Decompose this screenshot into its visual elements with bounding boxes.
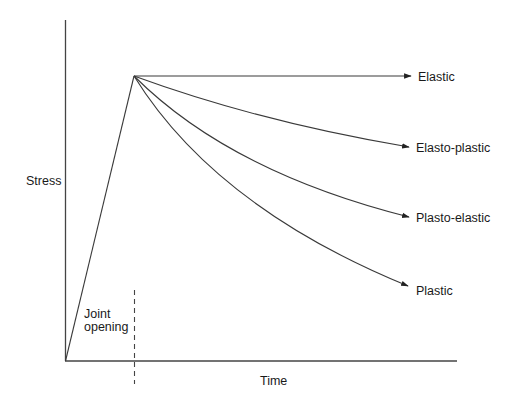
- y-axis-label: Stress: [26, 174, 61, 188]
- x-axis-label: Time: [260, 374, 287, 388]
- plastic-curve: [134, 76, 408, 286]
- elasto-plastic-label: Elasto-plastic: [416, 141, 490, 155]
- joint-opening-label-line1: Joint: [84, 307, 111, 321]
- joint-opening-label-line2: opening: [84, 320, 129, 334]
- plasto-elastic-curve: [134, 76, 409, 217]
- elastic-label: Elastic: [418, 70, 455, 84]
- plasto-elastic-label: Plasto-elastic: [416, 211, 490, 225]
- plastic-label: Plastic: [416, 284, 453, 298]
- stress-time-diagram: Stress Time Joint opening Elastic Elasto…: [0, 0, 514, 406]
